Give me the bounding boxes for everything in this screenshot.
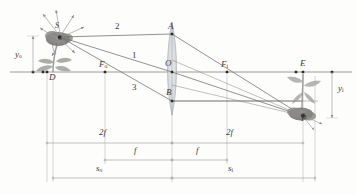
dim-label-si: si (228, 164, 233, 174)
point-label-Fo: Fo (99, 60, 107, 70)
point-label-E: E (300, 59, 306, 68)
dim-label-2f-left: 2f (99, 128, 106, 137)
principal-rays (60, 34, 318, 116)
height-label-yi: yi (338, 84, 344, 94)
dimension-bars (47, 143, 315, 178)
lens-ray-diagram: S D Fo O A B Fi E P 1 2 3 yo yi 2f 2f f … (0, 0, 357, 195)
dim-label-f-left: f (134, 146, 137, 155)
ray-label-1: 1 (132, 51, 137, 60)
dim-label-f-right: f (196, 146, 199, 155)
point-label-O: O (165, 59, 172, 68)
dim-label-so: so (96, 164, 102, 174)
image-convergence-lines (172, 60, 303, 116)
ray-1-path (60, 37, 303, 116)
point-label-Fi: Fi (221, 60, 228, 70)
diagram-canvas (0, 0, 357, 195)
point-label-D: D (49, 73, 56, 82)
point-label-B: B (166, 88, 172, 97)
ray-label-3: 3 (132, 83, 137, 92)
ray-3-path (60, 37, 303, 101)
point-label-S: S (55, 22, 59, 30)
point-label-P: P (301, 114, 307, 123)
height-label-yo: yo (15, 50, 22, 60)
ray-label-2: 2 (115, 22, 120, 31)
dimension-guide-lines (47, 22, 315, 182)
labeled-point-dots (32, 33, 334, 118)
point-label-A: A (168, 22, 174, 31)
dim-label-2f-right: 2f (226, 128, 233, 137)
